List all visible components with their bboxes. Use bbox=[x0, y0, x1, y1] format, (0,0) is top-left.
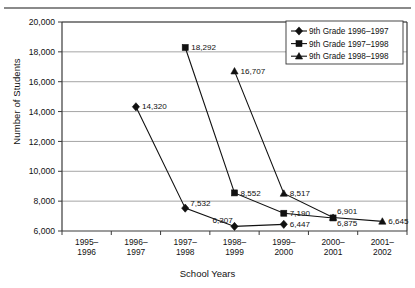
series-line bbox=[136, 107, 284, 227]
data-point-marker[interactable] bbox=[132, 103, 139, 111]
x-tick-label: 2000–2001 bbox=[321, 237, 345, 257]
legend-marker-square bbox=[296, 41, 302, 47]
data-point-label: 6,447 bbox=[290, 220, 311, 229]
data-point-marker[interactable] bbox=[182, 44, 188, 50]
legend-label[interactable]: 9th Grade 1998–1998 bbox=[309, 52, 389, 61]
chart-plot: 20,00018,00016,00014,00012,00010,0008,00… bbox=[0, 0, 415, 288]
y-tick-labels-group: 20,00018,00016,00014,00012,00010,0008,00… bbox=[29, 17, 56, 236]
legend-label[interactable]: 9th Grade 1997–1998 bbox=[309, 40, 389, 49]
data-point-label: 7,190 bbox=[290, 209, 311, 218]
series-line bbox=[235, 71, 383, 221]
data-point-label: 6,307 bbox=[213, 216, 234, 225]
chart-legend[interactable]: 9th Grade 1996–19979th Grade 1997–19989t… bbox=[286, 21, 403, 64]
x-tick-label: 1995–1996 bbox=[75, 237, 99, 257]
data-point-marker[interactable] bbox=[280, 190, 287, 196]
data-point-label: 6,645 bbox=[388, 217, 409, 226]
y-tick-label: 18,000 bbox=[29, 47, 56, 57]
y-tick-label: 6,000 bbox=[33, 226, 55, 236]
data-point-marker[interactable] bbox=[280, 220, 287, 228]
x-tick-label: 2001–2002 bbox=[371, 237, 395, 257]
data-point-label: 6,875 bbox=[337, 219, 358, 228]
data-point-label: 8,517 bbox=[290, 189, 311, 198]
data-point-marker[interactable] bbox=[231, 68, 238, 74]
x-tick-label: 1996–1997 bbox=[124, 237, 148, 257]
y-tick-label: 20,000 bbox=[29, 17, 56, 27]
chart-figure: Number of Students School Years 20,00018… bbox=[0, 0, 415, 288]
data-point-marker[interactable] bbox=[281, 210, 287, 216]
legend-label[interactable]: 9th Grade 1996–1997 bbox=[309, 27, 389, 36]
data-point-label: 8,552 bbox=[241, 189, 262, 198]
y-tick-label: 14,000 bbox=[29, 107, 56, 117]
x-tick-marks-group bbox=[62, 231, 407, 235]
x-tick-labels-group: 1995–19961996–19971997–19981998–19991999… bbox=[75, 237, 394, 257]
y-tick-label: 10,000 bbox=[29, 166, 56, 176]
x-tick-label: 1997–1998 bbox=[174, 237, 198, 257]
data-point-label: 18,292 bbox=[191, 43, 216, 52]
data-point-label: 7,532 bbox=[190, 199, 211, 208]
data-point-marker[interactable] bbox=[232, 190, 238, 196]
x-tick-label: 1999–2000 bbox=[272, 237, 296, 257]
data-point-marker[interactable] bbox=[182, 204, 189, 212]
y-tick-label: 12,000 bbox=[29, 137, 56, 147]
data-point-label: 6,901 bbox=[337, 207, 358, 216]
data-point-label: 14,320 bbox=[142, 102, 167, 111]
y-tick-label: 8,000 bbox=[33, 196, 55, 206]
data-point-label: 16,707 bbox=[241, 67, 266, 76]
x-tick-label: 1998–1999 bbox=[223, 237, 247, 257]
y-tick-label: 16,000 bbox=[29, 77, 56, 87]
